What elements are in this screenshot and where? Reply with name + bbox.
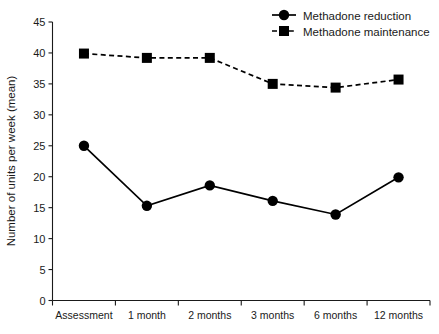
y-tick-label: 5 xyxy=(39,264,45,276)
y-tick-label: 40 xyxy=(33,47,45,59)
y-tick-label: 0 xyxy=(39,295,45,307)
series-2 xyxy=(79,49,404,93)
x-tick-label: 6 months xyxy=(314,309,357,321)
y-tick-label: 15 xyxy=(33,202,45,214)
data-point xyxy=(393,172,403,182)
series-1 xyxy=(79,141,404,220)
data-point xyxy=(205,180,215,190)
series-line xyxy=(84,54,399,88)
y-tick-label: 45 xyxy=(33,16,45,28)
y-axis-title: Number of units per week (mean) xyxy=(5,76,17,247)
line-chart: 051015202530354045 Assessment1 month2 mo… xyxy=(0,0,439,334)
y-tick-label: 20 xyxy=(33,171,45,183)
data-point xyxy=(79,141,89,151)
data-point xyxy=(268,79,278,89)
x-tick-label: 1 month xyxy=(128,309,166,321)
x-axis: Assessment1 month2 months3 months6 month… xyxy=(53,301,431,321)
y-tick-label: 25 xyxy=(33,140,45,152)
x-tick-label: 2 months xyxy=(188,309,231,321)
data-point xyxy=(142,201,152,211)
chart-legend: Methadone reductionMethadone maintenance xyxy=(272,10,430,38)
chart-figure: 051015202530354045 Assessment1 month2 mo… xyxy=(0,0,439,334)
x-tick-label: 12 months xyxy=(374,309,423,321)
legend-marker xyxy=(279,10,289,20)
data-point xyxy=(142,53,152,63)
data-point xyxy=(205,53,215,63)
x-tick-label-group: Assessment1 month2 months3 months6 month… xyxy=(55,309,423,321)
data-point xyxy=(330,209,340,219)
legend-item: Methadone reduction xyxy=(272,10,411,22)
legend-marker xyxy=(279,26,289,36)
y-tick-label: 35 xyxy=(33,78,45,90)
data-point xyxy=(268,196,278,206)
y-tick-group xyxy=(49,22,53,301)
legend-label: Methadone reduction xyxy=(303,10,411,22)
data-point xyxy=(79,49,89,59)
legend-label: Methadone maintenance xyxy=(303,26,430,38)
data-point xyxy=(331,83,341,93)
x-tick-group xyxy=(53,301,431,306)
x-tick-label: 3 months xyxy=(251,309,294,321)
legend-item: Methadone maintenance xyxy=(272,26,430,38)
y-tick-label: 10 xyxy=(33,233,45,245)
y-tick-label: 30 xyxy=(33,109,45,121)
series-line xyxy=(84,146,399,215)
data-point xyxy=(394,75,404,85)
y-tick-label-group: 051015202530354045 xyxy=(33,16,45,307)
x-tick-label: Assessment xyxy=(55,309,112,321)
series-layer xyxy=(79,49,404,220)
y-axis: 051015202530354045 xyxy=(33,16,52,307)
